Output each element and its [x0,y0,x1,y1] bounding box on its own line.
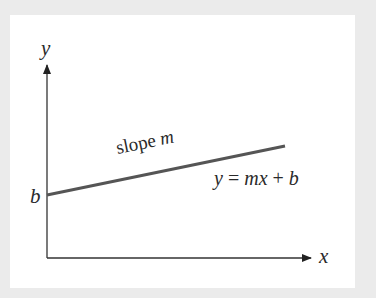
equation-label: y = mx + b [214,168,299,188]
equation-y: y [214,167,223,189]
y-axis-label: y [41,38,50,59]
equation-x: x [259,167,268,189]
equation-m: m [244,167,258,189]
equation-b: b [289,167,299,189]
x-axis-label: x [319,246,328,267]
equation-equals: = [223,167,244,189]
equation-plus: + [268,167,289,189]
intercept-label: b [30,186,41,207]
